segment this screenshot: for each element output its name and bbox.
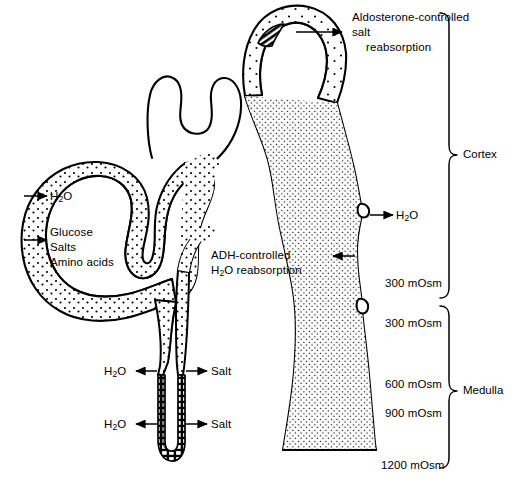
medulla-bracket <box>440 306 457 468</box>
aldosterone-line-1: Aldosterone-controlled <box>352 10 469 25</box>
proximal-solutes-label: Glucose Salts Amino acids <box>50 225 114 270</box>
osmolarity-reading-0: 300 mOsm <box>385 276 442 290</box>
adh-line-1: ADH-controlled <box>211 248 302 263</box>
adh-line-2: H2O reabsorption <box>211 263 302 279</box>
aldosterone-annotation: Aldosterone-controlled salt reabsorption <box>352 10 469 55</box>
adh-annotation: ADH-controlled H2O reabsorption <box>211 248 302 279</box>
loop-of-henle-descending-limb <box>155 300 176 375</box>
region-label-cortex: Cortex <box>463 148 497 160</box>
proximal-water-label: H2O <box>50 189 72 204</box>
aldosterone-line-3: reabsorption <box>352 40 469 55</box>
osmolarity-reading-1: 300 mOsm <box>385 316 442 330</box>
collecting-duct-water-label: H2O <box>396 208 418 223</box>
osmolarity-reading-2: 600 mOsm <box>385 377 442 391</box>
osmolarity-reading-4: 1200 mOsm <box>381 458 445 472</box>
region-brackets <box>440 13 457 468</box>
loop-water-lower-label: H2O <box>104 417 126 432</box>
proximal-solute-salts: Salts <box>50 240 114 255</box>
proximal-solute-glucose: Glucose <box>50 225 114 240</box>
nephron-diagram: Aldosterone-controlled salt reabsorption… <box>0 0 513 492</box>
loop-salt-upper-label: Salt <box>211 364 231 378</box>
loop-water-upper-label: H2O <box>104 364 126 379</box>
aldosterone-line-2: salt <box>352 25 469 40</box>
proximal-solute-amino-acids: Amino acids <box>50 255 114 270</box>
cortex-bracket <box>440 13 457 298</box>
collecting-duct <box>243 6 376 450</box>
loop-of-henle-thin-segment <box>158 375 185 461</box>
osmolarity-reading-3: 900 mOsm <box>385 406 442 420</box>
region-label-medulla: Medulla <box>463 384 503 396</box>
loop-salt-lower-label: Salt <box>211 417 231 431</box>
